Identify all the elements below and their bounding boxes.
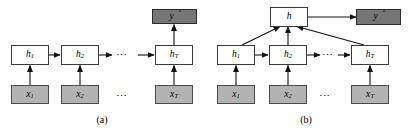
panel-b-hidden-node-1: h1	[217, 45, 255, 65]
panel-a-input-ellipsis: ⋯	[116, 91, 128, 102]
panel-a-input-node-1: x1	[11, 85, 49, 104]
panel-a: ̂y h1 h2 hT ⋯ x1 x2 xT ⋯ (a)	[0, 0, 204, 133]
panel-b-hidden-label-1: h1	[232, 50, 240, 60]
panel-b-input-ellipsis: ⋯	[319, 91, 331, 102]
panel-a-hidden-node-T: hT	[155, 45, 193, 65]
panel-b-hidden-label-T: hT	[366, 50, 375, 60]
panel-a-hidden-node-1: h1	[11, 45, 49, 65]
panel-b-pooling-label: h	[287, 12, 292, 22]
panel-b-input-node-2: x2	[269, 85, 307, 104]
panel-a-hidden-label-1: h1	[26, 50, 34, 60]
panel-a-input-label-T: xT	[170, 90, 178, 100]
panel-b-input-node-T: xT	[351, 85, 389, 104]
panel-a-hidden-ellipsis: ⋯	[116, 50, 128, 61]
rnn-architecture-figure: ̂y h1 h2 hT ⋯ x1 x2 xT ⋯ (a)	[0, 0, 408, 133]
panel-a-hidden-label-2: h2	[76, 50, 84, 60]
panel-a-input-node-T: xT	[155, 85, 193, 104]
panel-b-input-label-T: xT	[366, 90, 374, 100]
panel-a-hidden-node-2: h2	[61, 45, 99, 65]
panel-a-output-node: ̂y	[152, 9, 197, 24]
panel-a-input-label-2: x2	[76, 90, 84, 100]
panel-b: h ̂y h1 h2 hT ⋯ x1 x2 xT ⋯	[204, 0, 408, 133]
panel-b-hidden-ellipsis: ⋯	[322, 50, 334, 61]
panel-a-hidden-label-T: hT	[170, 50, 179, 60]
panel-b-output-node: ̂y	[356, 9, 401, 25]
panel-b-hidden-label-2: h2	[284, 50, 292, 60]
panel-b-input-label-2: x2	[284, 90, 292, 100]
panel-b-hidden-node-2: h2	[269, 45, 307, 65]
panel-b-pooling-node: h	[270, 7, 308, 27]
panel-a-input-label-1: x1	[26, 90, 34, 100]
panel-b-caption: (b)	[204, 114, 408, 125]
panel-b-input-label-1: x1	[232, 90, 240, 100]
panel-a-input-node-2: x2	[61, 85, 99, 104]
panel-b-input-node-1: x1	[217, 85, 255, 104]
panel-b-hidden-node-T: hT	[351, 45, 389, 65]
panel-a-caption: (a)	[0, 114, 204, 125]
